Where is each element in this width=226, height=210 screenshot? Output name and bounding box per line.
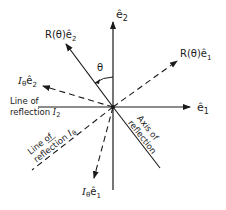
svg-text:reflection I2: reflection I2 <box>10 107 60 119</box>
theta-angle-arc <box>95 77 113 84</box>
e2-label: ê2 <box>116 8 128 23</box>
origin-point <box>111 105 115 109</box>
reflection-diagram: ê2 ê1 R(θ)ê2 R(θ)ê1 Iθê2 Iθê1 Line of <box>0 0 226 210</box>
r-theta-e1-vector <box>113 61 177 107</box>
line-of-reflection-i2-label: Line of reflection I2 <box>10 96 60 119</box>
e1-label: ê1 <box>197 101 209 116</box>
i-theta-e1-label: Iθê1 <box>81 186 101 200</box>
line-of-reflection-i-theta-label: Line of reflection Iθ <box>26 118 79 166</box>
i-theta-e2-label: Iθê2 <box>17 75 37 89</box>
r-theta-e2-label: R(θ)ê2 <box>45 29 77 43</box>
i-theta-e1-vector <box>94 107 113 178</box>
axis-of-reflection-label: Axis of reflection <box>126 112 166 156</box>
svg-text:Line of: Line of <box>10 96 40 106</box>
theta-label: θ <box>97 62 103 73</box>
r-theta-e1-label: R(θ)ê1 <box>180 48 212 62</box>
i-theta-e2-vector <box>43 86 113 107</box>
r-theta-e2-vector <box>66 44 113 107</box>
